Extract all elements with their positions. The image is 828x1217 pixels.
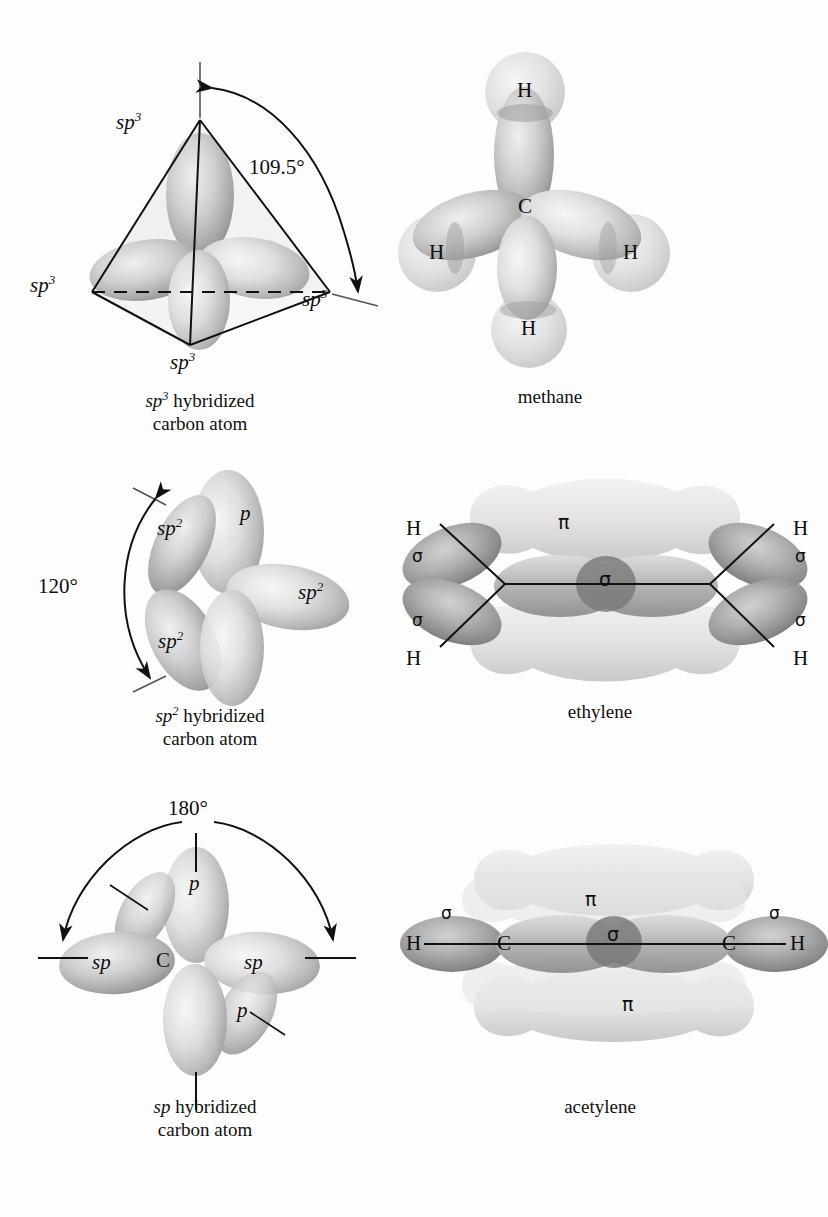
- acetylene-sigma-center: σ: [607, 925, 619, 944]
- figure-artwork: [0, 0, 828, 1217]
- ethylene-pi-top: π: [558, 513, 569, 532]
- sp3-label-left: sp3: [30, 273, 55, 296]
- acetylene-pi-bottom: π: [622, 995, 633, 1014]
- sp3-tetrahedron-artwork: [85, 62, 378, 350]
- ethylene-h-upper-right: H: [793, 518, 808, 539]
- sp3-label-top: sp3: [116, 110, 141, 133]
- ethylene-sigma-lower-left: σ: [412, 612, 423, 629]
- acetylene-c-left: C: [497, 933, 511, 954]
- methane-c-center: C: [518, 196, 532, 217]
- methane-h-top: H: [517, 80, 532, 101]
- angle-label-120: 120°: [38, 576, 78, 597]
- caption-sp3-carbon: sp3 hybridized carbon atom: [70, 385, 330, 435]
- angle-label-109: 109.5°: [249, 157, 305, 178]
- acetylene-c-right: C: [722, 933, 736, 954]
- sp3-label-bottom: sp3: [170, 350, 195, 373]
- angle-label-180: 180°: [168, 798, 208, 819]
- acetylene-sigma-left: σ: [441, 905, 452, 922]
- acetylene-h-left: H: [406, 933, 421, 954]
- ethylene-h-lower-left: H: [406, 648, 421, 669]
- methane-h-right: H: [623, 242, 638, 263]
- methane-h-bottom: H: [521, 318, 536, 339]
- sp2-label-upper-left: sp2: [157, 516, 182, 539]
- sp2-label-lower-left: sp2: [158, 629, 183, 652]
- acetylene-sigma-right: σ: [769, 905, 780, 922]
- sp-p-label-lower: p: [237, 1000, 248, 1021]
- caption-acetylene: acetylene: [480, 1095, 720, 1118]
- sp-carbon-artwork: [38, 822, 356, 1110]
- caption-sp2-carbon: sp2 hybridized carbon atom: [70, 700, 350, 750]
- sp3-label-right: sp3: [302, 287, 327, 310]
- p-label-sp2: p: [240, 503, 251, 524]
- caption-ethylene: ethylene: [480, 700, 720, 723]
- sp2-label-right: sp2: [298, 580, 323, 603]
- methane-h-left: H: [429, 242, 444, 263]
- caption-methane: methane: [430, 385, 670, 408]
- acetylene-h-right: H: [790, 933, 805, 954]
- orbital-hybridization-figure: sp3 sp3 sp3 sp3 109.5° sp3 hybridized ca…: [0, 0, 828, 1217]
- ethylene-sigma-upper-left: σ: [412, 548, 423, 565]
- ethylene-h-lower-right: H: [793, 648, 808, 669]
- ethylene-sigma-center: σ: [599, 570, 611, 589]
- sp-p-label-top: p: [189, 873, 200, 894]
- sp-label-left: sp: [92, 952, 111, 973]
- ethylene-sigma-upper-right: σ: [795, 548, 806, 565]
- sp-carbon-center: C: [156, 950, 170, 971]
- ethylene-sigma-lower-right: σ: [795, 612, 806, 629]
- caption-sp-carbon: sp hybridized carbon atom: [70, 1095, 340, 1141]
- sp-label-right: sp: [244, 952, 263, 973]
- ethylene-h-upper-left: H: [406, 518, 421, 539]
- acetylene-pi-top: π: [585, 890, 596, 909]
